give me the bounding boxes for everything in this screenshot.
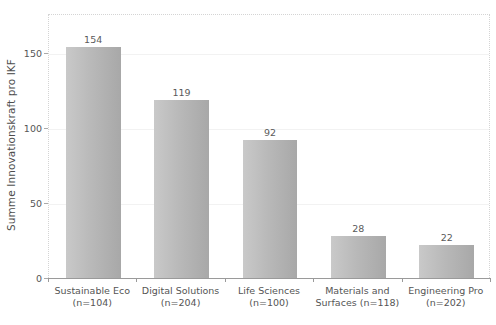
x-tick-label: Sustainable Eco (n=104) <box>48 285 136 309</box>
bar-value-label: 92 <box>243 127 298 138</box>
y-axis-title: Summe Innovationskraft pro IKF <box>0 0 22 290</box>
bar <box>419 245 474 278</box>
bar-value-label: 154 <box>66 34 121 45</box>
y-tick-label: 150 <box>0 48 42 59</box>
bar-value-label: 119 <box>154 87 209 98</box>
x-tick-mark <box>225 278 226 282</box>
bar-value-label: 22 <box>419 232 474 243</box>
x-tick-label: Life Sciences (n=100) <box>225 285 313 309</box>
x-tick-mark <box>402 278 403 282</box>
x-tick-mark <box>136 278 137 282</box>
bar <box>243 140 298 278</box>
bar <box>66 47 121 278</box>
x-tick-mark <box>48 278 49 282</box>
y-tick-label: 0 <box>0 273 42 284</box>
bar <box>331 236 386 278</box>
x-tick-label: Engineering Pro (n=202) <box>402 285 490 309</box>
y-tick-label: 100 <box>0 123 42 134</box>
y-tick-mark <box>44 203 48 204</box>
bar-value-label: 28 <box>331 223 386 234</box>
x-tick-label: Materials and Surfaces (n=118) <box>313 285 401 309</box>
bar <box>154 100 209 279</box>
y-tick-mark <box>44 128 48 129</box>
y-tick-label: 50 <box>0 198 42 209</box>
x-tick-mark <box>490 278 491 282</box>
plot-area: 154119922822 <box>48 14 490 278</box>
x-tick-label: Digital Solutions (n=204) <box>136 285 224 309</box>
bar-chart: Summe Innovationskraft pro IKF 154119922… <box>0 0 496 325</box>
y-tick-mark <box>44 53 48 54</box>
x-tick-mark <box>313 278 314 282</box>
x-axis-line <box>48 278 490 279</box>
